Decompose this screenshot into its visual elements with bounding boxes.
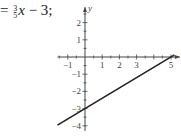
x-tick-label: 5 xyxy=(169,60,174,70)
x-tick-label: 3 xyxy=(134,60,139,70)
graph: −1123521−1−2−3−4xy xyxy=(0,0,181,140)
x-axis-label: x xyxy=(180,46,181,56)
y-tick-label: −4 xyxy=(71,121,81,131)
x-tick-label: 1 xyxy=(100,60,105,70)
x-tick-label: 2 xyxy=(117,60,122,70)
y-axis-label: y xyxy=(87,3,92,13)
y-tick-label: 1 xyxy=(77,35,82,45)
y-tick-label: 2 xyxy=(77,18,82,28)
x-axis-arrow-icon xyxy=(175,55,180,59)
y-axis-arrow-icon xyxy=(83,7,87,12)
y-tick-label: −2 xyxy=(71,86,81,96)
y-tick-label: −1 xyxy=(71,69,81,79)
